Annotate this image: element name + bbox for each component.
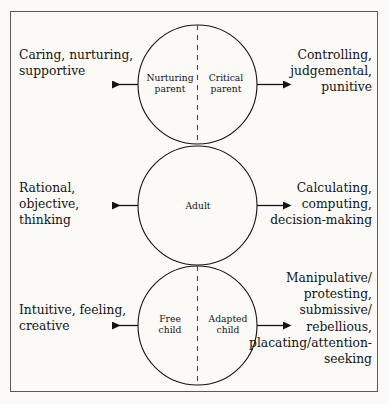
child-right-description: Manipulative/ protesting, submissive/ re… [248,270,372,367]
parent-right-description: Controlling, judgemental, punitive [260,47,372,96]
adult-right-description: Calculating, computing, decision-making [254,180,372,229]
nurturing-parent-label: Nurturing parent [143,72,197,95]
critical-parent-label: Critical parent [199,72,253,95]
adult-label: Adult [170,200,226,211]
free-child-label: Free child [145,313,195,336]
adult-left-description: Rational, objective, thinking [19,180,139,229]
parent-left-description: Caring, nurturing, supportive [19,47,137,79]
diagram-canvas: Caring, nurturing, supportive Rational, … [0,0,389,404]
child-left-description: Intuitive, feeling, creative [19,302,139,334]
adapted-child-label: Adapted child [199,313,257,336]
